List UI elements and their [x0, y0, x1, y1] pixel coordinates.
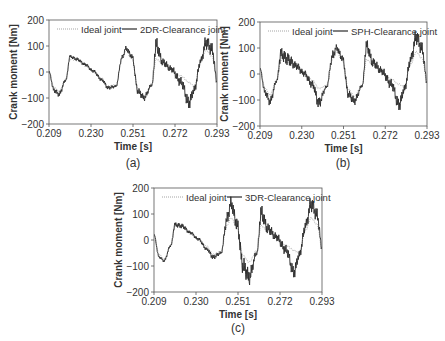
legend-label-clearance: SPH-Clearance joint	[351, 26, 437, 37]
caption-a: (a)	[113, 156, 153, 170]
x-tick-label: 0.272	[267, 296, 292, 307]
x-axis-label: Time [s]	[114, 141, 152, 152]
legend-label-clearance: 3DR-Clearance joint	[245, 192, 331, 203]
legend-label-clearance: 2DR-Clearance joint	[140, 24, 226, 35]
x-tick-label: 0.251	[331, 130, 356, 141]
chart-panel-b: 2001000−100−2000.2090.2300.2510.2720.293…	[219, 17, 440, 155]
legend: Ideal joint3DR-Clearance joint	[162, 192, 331, 203]
y-axis-label: Crank moment [Nm]	[113, 192, 124, 288]
series-line-clearance	[260, 31, 427, 110]
x-axis-label: Time [s]	[219, 309, 257, 320]
y-tick-label: 200	[238, 17, 255, 28]
y-tick-label: −100	[126, 261, 149, 272]
x-tick-label: 0.230	[78, 128, 103, 139]
x-tick-label: 0.293	[309, 296, 334, 307]
x-tick-label: 0.293	[414, 130, 439, 141]
y-tick-label: −100	[21, 93, 44, 104]
x-tick-label: 0.209	[141, 296, 166, 307]
x-tick-label: 0.230	[289, 130, 314, 141]
x-tick-label: 0.272	[162, 128, 187, 139]
caption-b: (b)	[323, 156, 363, 170]
series-line-ideal	[49, 49, 217, 96]
chart-panel-c: 2001000−100−2000.2090.2300.2510.2720.293…	[113, 183, 335, 321]
x-tick-label: 0.251	[225, 296, 250, 307]
legend-label-ideal: Ideal joint	[292, 26, 333, 37]
plot-frame	[49, 20, 217, 124]
y-axis-label: Crank moment [Nm]	[219, 26, 230, 122]
figure: 2001000−100−2000.2090.2300.2510.2720.293…	[0, 0, 445, 341]
x-tick-label: 0.293	[204, 128, 229, 139]
y-axis-label: Crank moment [Nm]	[8, 24, 19, 120]
plot-frame	[260, 22, 427, 126]
y-tick-label: 100	[27, 41, 44, 52]
x-tick-label: 0.209	[247, 130, 272, 141]
legend-label-ideal: Ideal joint	[81, 24, 122, 35]
y-tick-label: 100	[238, 43, 255, 54]
plot-frame	[154, 188, 322, 292]
legend-label-ideal: Ideal joint	[186, 192, 227, 203]
legend: Ideal jointSPH-Clearance joint	[268, 26, 437, 37]
x-tick-label: 0.272	[373, 130, 398, 141]
y-tick-label: 0	[249, 69, 255, 80]
x-tick-label: 0.209	[36, 128, 61, 139]
y-tick-label: 0	[38, 67, 44, 78]
series-line-clearance	[154, 197, 322, 285]
y-tick-label: −100	[232, 95, 255, 106]
x-tick-label: 0.251	[120, 128, 145, 139]
series-line-clearance	[49, 38, 217, 109]
y-tick-label: 100	[132, 209, 149, 220]
y-tick-label: 200	[27, 15, 44, 26]
y-tick-label: 200	[132, 183, 149, 194]
caption-c: (c)	[218, 321, 258, 335]
x-tick-label: 0.230	[183, 296, 208, 307]
chart-panel-a: 2001000−100−2000.2090.2300.2510.2720.293…	[8, 15, 230, 153]
legend: Ideal joint2DR-Clearance joint	[57, 24, 226, 35]
x-axis-label: Time [s]	[324, 143, 362, 154]
y-tick-label: 0	[143, 235, 149, 246]
